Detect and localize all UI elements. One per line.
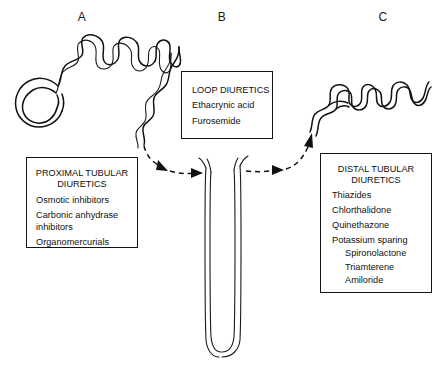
proximal-box-title: PROXIMAL TUBULAR DIURETICS — [27, 168, 137, 191]
diagram-canvas: A B C — [0, 0, 444, 375]
connector-proximal-to-loop — [144, 146, 203, 178]
loop-box-item-0: Ethacrynic acid — [182, 100, 272, 111]
glomerulus-bowmans-capsule — [16, 78, 64, 127]
distal-box-title: DISTAL TUBULAR DIURETICS — [321, 164, 431, 187]
proximal-convoluted-tubule — [56, 35, 181, 148]
loop-diuretics-box: LOOP DIURETICS Ethacrynic acid Furosemid… — [181, 71, 273, 139]
distal-box-subitem-1: Triamterene — [321, 262, 431, 273]
distal-box-item-0: Thiazides — [321, 190, 431, 201]
distal-diuretics-box: DISTAL TUBULAR DIURETICS Thiazides Chlor… — [320, 153, 432, 293]
distal-box-item-2: Quinethazone — [321, 220, 431, 231]
distal-box-subitem-2: Amiloride — [321, 275, 431, 286]
distal-box-item-3: Potassium sparing — [321, 235, 431, 246]
proximal-box-item-2: Organomercurials — [27, 237, 137, 248]
panel-label-b: B — [212, 10, 232, 24]
loop-box-title: LOOP DIURETICS — [182, 85, 272, 96]
distal-box-item-1: Chlorthalidone — [321, 205, 431, 216]
connector-loop-to-distal — [246, 133, 313, 175]
loop-box-item-1: Furosemide — [182, 116, 272, 127]
proximal-diuretics-box: PROXIMAL TUBULAR DIURETICS Osmotic inhib… — [26, 157, 138, 248]
distal-convoluted-tubule — [310, 82, 431, 136]
proximal-box-item-1: Carbonic anhydrase inhibitors — [27, 210, 137, 233]
panel-label-c: C — [373, 10, 393, 24]
distal-box-subitem-0: Spironolactone — [321, 248, 431, 259]
proximal-box-item-0: Osmotic inhibitors — [27, 195, 137, 206]
loop-of-henle — [199, 156, 248, 357]
panel-label-a: A — [72, 10, 92, 24]
